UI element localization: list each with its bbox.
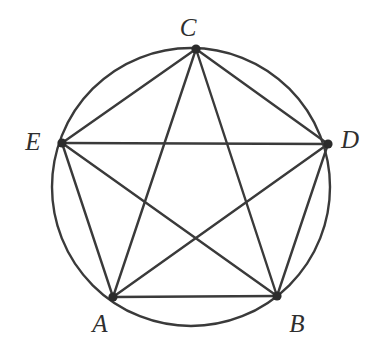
vertex-dot-b — [272, 291, 281, 300]
vertex-dot-d — [323, 139, 332, 148]
chord-AC — [113, 49, 196, 297]
vertex-dot-a — [108, 292, 117, 301]
chord-BC — [196, 49, 277, 296]
vertex-label-c: C — [180, 15, 197, 40]
chord-AE — [62, 143, 113, 297]
chord-BD — [277, 144, 328, 296]
chord-AB — [113, 296, 277, 297]
circle-layer — [52, 48, 330, 326]
circumscribed-circle — [52, 48, 330, 326]
vertex-label-e: E — [25, 129, 40, 154]
vertex-dot-e — [57, 138, 66, 147]
vertex-dot-c — [191, 44, 200, 53]
chord-DE — [62, 143, 328, 144]
chord-AD — [113, 144, 328, 297]
chord-BE — [62, 143, 277, 296]
geometry-figure: ABCDE — [0, 0, 378, 350]
vertex-label-b: B — [289, 311, 304, 336]
vertex-label-a: A — [92, 311, 107, 336]
geometry-canvas — [0, 0, 378, 350]
chord-CD — [196, 49, 328, 144]
vertex-label-d: D — [341, 127, 359, 152]
